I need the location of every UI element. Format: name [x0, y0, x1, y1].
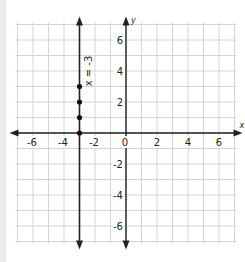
- x-tick-label: 0: [122, 137, 128, 148]
- data-point: [77, 99, 82, 104]
- coordinate-plane: xy-6-4-20246642-2-4-6x = -3: [0, 0, 244, 262]
- x-axis-arrow-right-icon: [234, 130, 243, 137]
- y-tick-label: -6: [113, 221, 123, 232]
- x-tick-label: 2: [154, 137, 160, 148]
- y-axis-arrow-up-icon: [123, 17, 130, 26]
- y-tick-label: 6: [117, 35, 123, 46]
- x-tick-label: -6: [27, 137, 37, 148]
- y-axis-arrow-down-icon: [123, 241, 130, 250]
- x-tick-label: 6: [216, 137, 222, 148]
- data-point: [77, 115, 82, 120]
- x-tick-label: -2: [89, 137, 99, 148]
- y-tick-label: 4: [117, 66, 123, 77]
- x-axis-label: x: [239, 121, 245, 130]
- line-arrow-up-icon: [76, 17, 83, 26]
- data-point: [77, 84, 82, 89]
- y-tick-label: -2: [113, 159, 123, 170]
- y-tick-label: 2: [117, 97, 123, 108]
- x-tick-label: -4: [58, 137, 68, 148]
- line-label: x = -3: [83, 56, 94, 87]
- y-tick-label: -4: [113, 190, 123, 201]
- y-axis-label: y: [130, 16, 136, 25]
- x-axis-arrow-left-icon: [10, 130, 19, 137]
- x-tick-label: 4: [185, 137, 191, 148]
- data-point: [77, 130, 82, 135]
- line-arrow-down-icon: [76, 241, 83, 250]
